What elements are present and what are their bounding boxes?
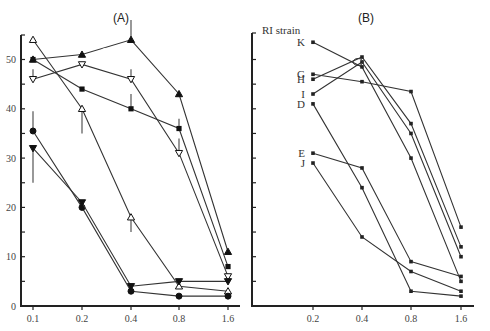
dot-marker-icon (360, 235, 364, 239)
dash-gap (102, 49, 106, 50)
series-line (313, 74, 461, 227)
circle-marker-icon (176, 293, 182, 299)
series-D: D (297, 98, 463, 298)
y-tick-label: 40 (6, 103, 16, 114)
dot-marker-icon (409, 90, 413, 94)
triangle-up-marker-icon (127, 36, 134, 42)
dot-marker-icon (459, 225, 463, 229)
dot-marker-icon (311, 72, 315, 76)
y-tick-label: 0 (11, 301, 16, 312)
dot-marker-icon (459, 294, 463, 298)
dot-marker-icon (311, 102, 315, 106)
dot-marker-icon (459, 275, 463, 279)
dot-marker-icon (311, 77, 315, 81)
dot-marker-icon (409, 270, 413, 274)
dot-marker-icon (409, 260, 413, 264)
panel-b: (B)RI strain0.20.40.81.6KGHIDEJ (251, 11, 474, 324)
dot-marker-icon (360, 166, 364, 170)
circle-marker-icon (30, 128, 36, 134)
y-axis-label: RI strain (262, 24, 301, 36)
square-marker-icon (225, 264, 230, 269)
dot-marker-icon (311, 40, 315, 44)
x-tick-label: 0.4 (125, 313, 138, 324)
dot-marker-icon (360, 80, 364, 84)
square-marker-icon (176, 126, 181, 131)
series-E: E (298, 147, 463, 278)
panel-b-title: (B) (358, 11, 374, 25)
x-tick-label: 0.8 (173, 313, 186, 324)
x-tick-label: 0.2 (76, 313, 89, 324)
x-tick-label: 0.2 (307, 313, 320, 324)
dot-marker-icon (459, 245, 463, 249)
series-filled-circle (30, 111, 231, 299)
square-marker-icon (79, 86, 84, 91)
y-tick-label: 50 (6, 54, 16, 65)
dot-marker-icon (311, 92, 315, 96)
series-label: J (301, 157, 306, 169)
dot-marker-icon (409, 122, 413, 126)
y-tick-label: 30 (6, 153, 16, 164)
series-I: I (301, 60, 462, 258)
series-label: K (297, 36, 305, 48)
x-tick-label: 1.6 (455, 313, 468, 324)
dot-marker-icon (459, 280, 463, 284)
x-tick-label: 0.1 (27, 313, 40, 324)
square-marker-icon (128, 106, 133, 111)
dot-marker-icon (409, 156, 413, 160)
dot-marker-icon (459, 255, 463, 259)
triangle-down-marker-icon (175, 150, 182, 156)
series-G: G (297, 68, 463, 229)
series-line (33, 60, 228, 267)
circle-marker-icon (225, 293, 231, 299)
series-K: K (297, 36, 463, 283)
triangle-down-marker-icon (29, 77, 36, 83)
triangle-up-marker-icon (224, 248, 231, 254)
series-label: D (297, 98, 305, 110)
series-line (313, 104, 461, 296)
y-tick-label: 10 (6, 251, 16, 262)
dot-marker-icon (459, 289, 463, 293)
triangle-up-marker-icon (29, 36, 36, 42)
x-tick-label: 1.6 (222, 313, 235, 324)
x-tick-label: 0.8 (405, 313, 418, 324)
y-tick-label: 20 (6, 202, 16, 213)
dot-marker-icon (360, 65, 364, 69)
triangle-up-marker-icon (127, 214, 134, 220)
series-line (313, 57, 461, 247)
dot-marker-icon (409, 132, 413, 136)
dot-marker-icon (360, 186, 364, 190)
chart-figure: (A)010203040500.10.20.40.81.6(B)RI strai… (0, 0, 490, 331)
dot-marker-icon (409, 289, 413, 293)
series-line (313, 153, 461, 276)
dot-marker-icon (360, 55, 364, 59)
square-marker-icon (30, 57, 35, 62)
panel-a: (A)010203040500.10.20.40.81.6 (6, 11, 240, 324)
triangle-down-marker-icon (127, 77, 134, 83)
dot-marker-icon (311, 151, 315, 155)
series-H: H (297, 55, 463, 248)
series-label: H (297, 73, 305, 85)
dot-marker-icon (311, 161, 315, 165)
x-tick-label: 0.4 (356, 313, 369, 324)
panel-a-title: (A) (113, 11, 129, 25)
